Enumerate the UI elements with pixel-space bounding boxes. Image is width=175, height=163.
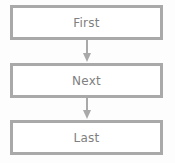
flow-node-first-label: First xyxy=(73,17,99,29)
flowchart: First Next Last xyxy=(0,0,175,163)
flow-node-last-label: Last xyxy=(74,132,100,144)
arrow-down-icon-first-next xyxy=(83,40,91,63)
flow-node-next-label: Next xyxy=(72,75,101,87)
flow-node-next[interactable]: Next xyxy=(10,63,163,98)
arrow-down-icon-next-last xyxy=(83,97,91,120)
flow-node-first[interactable]: First xyxy=(10,5,163,40)
flow-node-last[interactable]: Last xyxy=(10,120,163,155)
